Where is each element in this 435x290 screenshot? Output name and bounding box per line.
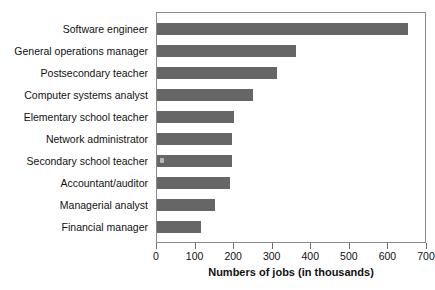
x-tick: [195, 243, 196, 249]
x-tick-label: 100: [186, 250, 204, 263]
bar: [157, 221, 201, 233]
bar: [157, 199, 215, 211]
category-label: Elementary school teacher: [0, 111, 148, 123]
x-tick-label: 0: [153, 250, 159, 263]
category-label: Managerial analyst: [0, 199, 148, 211]
category-label: Financial manager: [0, 221, 148, 233]
bar-artifact-mark: [160, 158, 164, 163]
plot-area: [156, 12, 426, 243]
x-axis-title: Numbers of jobs (in thousands): [156, 266, 426, 278]
category-label: General operations manager: [0, 45, 148, 57]
x-tick-label: 700: [417, 250, 435, 263]
bar: [157, 111, 234, 123]
bars-container: [157, 13, 425, 242]
bar: [157, 177, 230, 189]
bar: [157, 67, 277, 79]
bar: [157, 45, 296, 57]
category-axis-labels: Software engineerGeneral operations mana…: [0, 12, 152, 243]
x-tick-label: 400: [302, 250, 320, 263]
x-tick-label: 500: [340, 250, 358, 263]
x-tick: [233, 243, 234, 249]
bar: [157, 155, 232, 167]
category-label: Postsecondary teacher: [0, 67, 148, 79]
x-tick: [156, 243, 157, 249]
category-label: Software engineer: [0, 23, 148, 35]
x-tick-label: 200: [224, 250, 242, 263]
x-tick: [310, 243, 311, 249]
bar: [157, 89, 253, 101]
x-tick-label: 300: [263, 250, 281, 263]
category-label: Network administrator: [0, 133, 148, 145]
x-tick: [426, 243, 427, 249]
category-label: Computer systems analyst: [0, 89, 148, 101]
bar: [157, 23, 408, 35]
category-label: Secondary school teacher: [0, 155, 148, 167]
category-label: Accountant/auditor: [0, 177, 148, 189]
x-tick: [272, 243, 273, 249]
x-tick-label: 600: [379, 250, 397, 263]
x-tick: [349, 243, 350, 249]
bar: [157, 133, 232, 145]
x-tick: [387, 243, 388, 249]
x-axis-tick-labels: 0100200300400500600700: [156, 250, 432, 264]
